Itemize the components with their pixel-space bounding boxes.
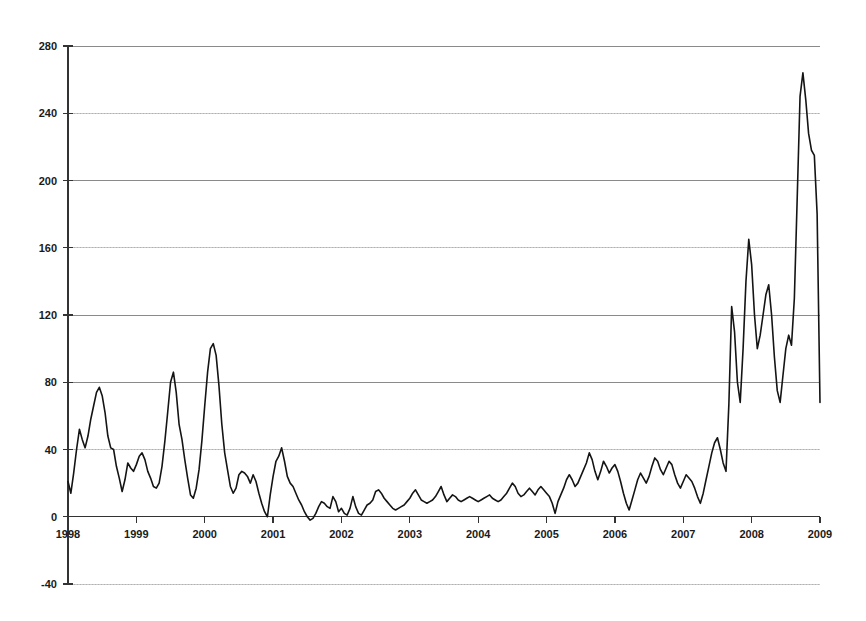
ytick-label-0: 0 [51, 511, 57, 523]
xtick-label-2006: 2006 [603, 528, 627, 540]
xtick-label-2002: 2002 [329, 528, 353, 540]
xtick-label-2000: 2000 [192, 528, 216, 540]
xtick-label-2001: 2001 [261, 528, 285, 540]
ytick-label-120: 120 [39, 309, 57, 321]
ytick-label-40: 40 [45, 444, 57, 456]
xtick-label-2009: 2009 [808, 528, 832, 540]
chart-container: 28024020016012080400-40 1998199920002001… [0, 0, 866, 621]
ytick-label--40: -40 [41, 578, 57, 590]
xtick-label-1998: 1998 [56, 528, 80, 540]
ytick-label-200: 200 [39, 175, 57, 187]
xtick-label-2005: 2005 [534, 528, 558, 540]
ytick-label-240: 240 [39, 107, 57, 119]
ytick-label-280: 280 [39, 40, 57, 52]
xtick-label-1999: 1999 [124, 528, 148, 540]
xtick-label-2003: 2003 [398, 528, 422, 540]
xtick-label-2007: 2007 [671, 528, 695, 540]
xtick-label-2004: 2004 [466, 528, 491, 540]
ytick-label-80: 80 [45, 376, 57, 388]
xtick-label-2008: 2008 [739, 528, 763, 540]
ytick-label-160: 160 [39, 242, 57, 254]
line-chart: 28024020016012080400-40 1998199920002001… [0, 0, 866, 621]
